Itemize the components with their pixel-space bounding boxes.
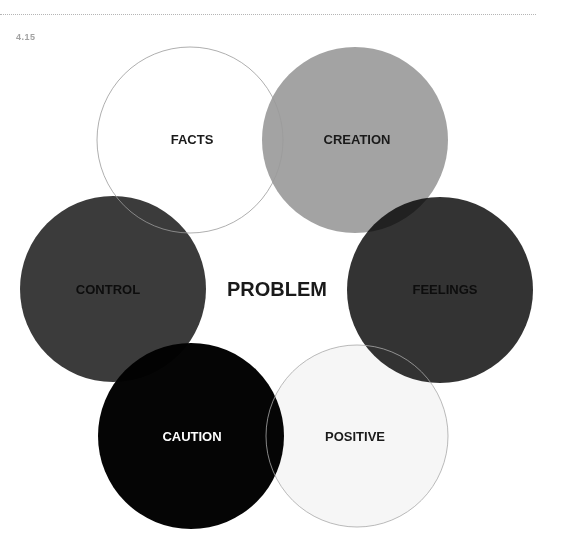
label-control: CONTROL <box>76 282 140 297</box>
label-feelings: FEELINGS <box>412 282 477 297</box>
label-creation: CREATION <box>324 132 391 147</box>
six-thinking-hats-diagram: FACTS CREATION FEELINGS POSITIVE CAUTION… <box>0 0 562 552</box>
label-facts: FACTS <box>171 132 214 147</box>
label-positive: POSITIVE <box>325 429 385 444</box>
label-caution: CAUTION <box>162 429 221 444</box>
center-label-problem: PROBLEM <box>227 278 327 300</box>
